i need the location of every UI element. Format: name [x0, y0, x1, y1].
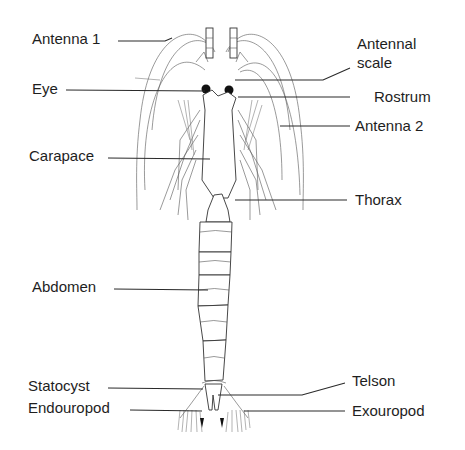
- abdomen-segments: [198, 222, 232, 381]
- label-antennal-scale-line1: Antennal: [357, 36, 416, 52]
- label-antenna-2: Antenna 2: [355, 118, 423, 134]
- label-statocyst: Statocyst: [28, 378, 90, 394]
- label-carapace: Carapace: [29, 148, 94, 164]
- label-exouropod: Exouropod: [352, 403, 425, 419]
- label-rostrum: Rostrum: [374, 89, 431, 105]
- antennal-peduncles: [206, 28, 237, 58]
- label-abdomen: Abdomen: [32, 279, 96, 295]
- label-antennal-scale-line2: scale: [357, 55, 392, 71]
- tail-fan: [178, 381, 250, 433]
- carapace-outline: [202, 90, 236, 198]
- antenna-1-right: [226, 34, 303, 210]
- thoracic-legs-right: [238, 100, 276, 220]
- shrimp-anatomy-diagram: Antenna 1 Eye Carapace Abdomen Statocyst…: [0, 0, 465, 450]
- antennal-scales: [196, 52, 248, 62]
- antenna-1-left: [135, 34, 215, 210]
- label-eye: Eye: [32, 81, 58, 97]
- label-telson: Telson: [352, 373, 395, 389]
- label-endouropod: Endouropod: [28, 400, 110, 416]
- label-thorax: Thorax: [355, 192, 402, 208]
- label-antenna-1: Antenna 1: [32, 31, 100, 47]
- thoracic-legs-left: [160, 100, 200, 220]
